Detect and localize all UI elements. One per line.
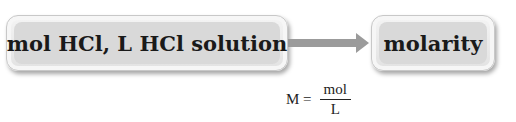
source-quantity-label: mol HCl, L HCl solution xyxy=(7,31,288,56)
formula-lhs: M = xyxy=(286,91,312,108)
molarity-formula: M = mol L xyxy=(286,78,351,120)
formula-fraction: mol L xyxy=(320,81,351,118)
formula-denominator: L xyxy=(331,100,340,118)
target-quantity-box: molarity xyxy=(371,15,495,71)
formula-numerator: mol xyxy=(320,81,351,100)
arrow-right-icon xyxy=(288,39,358,47)
source-quantity-box: mol HCl, L HCl solution xyxy=(6,15,288,71)
target-quantity-label: molarity xyxy=(384,31,483,56)
arrow-head-icon xyxy=(356,33,369,53)
